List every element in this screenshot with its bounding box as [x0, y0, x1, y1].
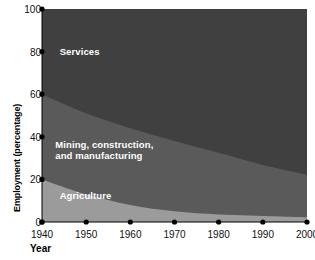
series-annotation: and manufacturing: [55, 150, 142, 161]
x-tick-label: 1980: [208, 229, 230, 240]
x-tick-label: 1960: [119, 229, 141, 240]
series-annotation: Services: [60, 46, 100, 57]
series-annotation: Agriculture: [60, 190, 112, 201]
employment-area-chart: Employment (percentage) 020406080100 194…: [0, 0, 315, 260]
x-tick-label: 1970: [163, 229, 185, 240]
x-tick-label: 2000: [296, 229, 315, 240]
series-annotation: Mining, construction,: [55, 139, 153, 150]
x-tick-label: 1940: [31, 229, 53, 240]
x-tick-label: 1990: [252, 229, 274, 240]
x-tick-label: 1950: [75, 229, 97, 240]
x-axis-title: Year: [30, 243, 51, 254]
x-axis-tick-labels: 1940195019601970198019902000: [0, 0, 315, 260]
